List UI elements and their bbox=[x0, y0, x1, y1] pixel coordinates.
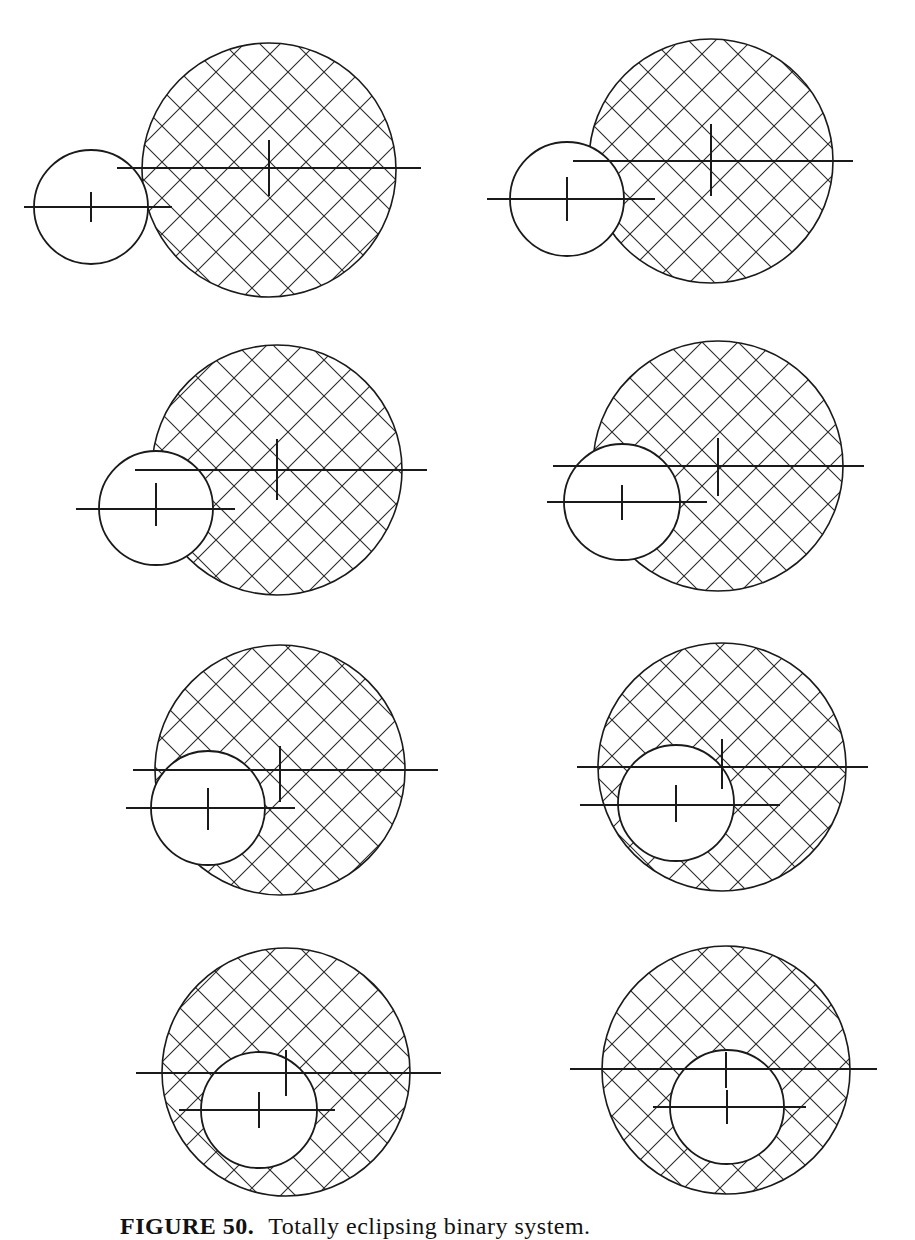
figure-label: FIGURE 50. bbox=[120, 1213, 254, 1239]
eclipse-panel-4 bbox=[547, 341, 864, 591]
eclipse-panel-2 bbox=[487, 39, 853, 283]
eclipse-panel-6 bbox=[577, 643, 868, 891]
figure-caption: FIGURE 50.Totally eclipsing binary syste… bbox=[120, 1213, 591, 1240]
eclipse-panel-5 bbox=[126, 645, 438, 895]
eclipse-panel-1 bbox=[24, 43, 421, 297]
eclipse-panel-3 bbox=[76, 345, 427, 595]
eclipse-panel-8 bbox=[570, 946, 877, 1194]
caption-text: Totally eclipsing binary system. bbox=[268, 1213, 590, 1239]
eclipse-panel-7 bbox=[136, 948, 441, 1196]
panel-group bbox=[24, 39, 877, 1196]
